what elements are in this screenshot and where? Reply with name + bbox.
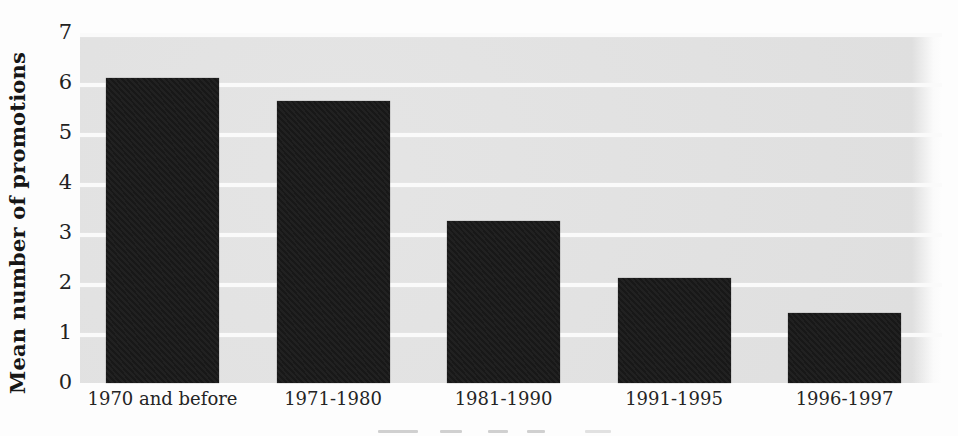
- bar-1971-1980: [277, 101, 390, 384]
- x-category-label: 1970 and before: [73, 388, 253, 409]
- y-tick-label-0: 0: [12, 372, 72, 393]
- y-tick-label-3: 3: [12, 222, 72, 243]
- y-tick-label-6: 6: [12, 72, 72, 93]
- y-tick-label-5: 5: [12, 122, 72, 143]
- bar-1970-and-before: [106, 78, 219, 383]
- bar-1996-1997: [788, 313, 901, 383]
- bar-1981-1990: [447, 221, 560, 384]
- y-tick-label-4: 4: [12, 172, 72, 193]
- y-tick-label-1: 1: [12, 322, 72, 343]
- x-category-label: 1971-1980: [243, 388, 423, 409]
- bar-chart-figure: Mean number of promotions 01234567 1970 …: [0, 0, 958, 436]
- x-category-label: 1996-1997: [755, 388, 935, 409]
- y-tick-label-2: 2: [12, 272, 72, 293]
- bar-1991-1995: [618, 278, 731, 383]
- x-category-label: 1981-1990: [414, 388, 594, 409]
- x-category-label: 1991-1995: [584, 388, 764, 409]
- plot-area: [80, 33, 942, 383]
- gridline-y-7: [80, 33, 942, 37]
- y-tick-label-7: 7: [12, 22, 72, 43]
